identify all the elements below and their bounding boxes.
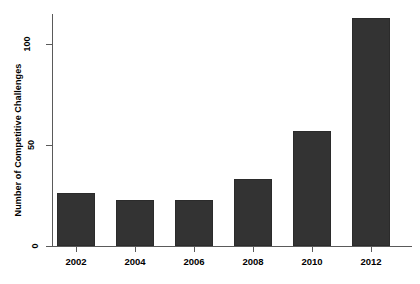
y-tick-label-0: 0	[29, 231, 41, 261]
bar-2004	[116, 200, 154, 246]
y-tick-mark-100	[46, 44, 52, 45]
y-tick-label-100: 100	[21, 29, 33, 59]
x-axis-line	[52, 246, 412, 247]
x-tick-mark-2010	[312, 247, 313, 252]
bar-2006	[175, 200, 213, 246]
x-tick-label-2010: 2010	[290, 255, 334, 268]
x-tick-mark-2006	[194, 247, 195, 252]
x-tick-label-2012: 2012	[349, 255, 393, 268]
x-tick-label-2002: 2002	[54, 255, 98, 268]
y-axis-line	[52, 14, 53, 247]
x-tick-label-2004: 2004	[113, 255, 157, 268]
x-tick-mark-2012	[371, 247, 372, 252]
y-tick-label-50: 50	[25, 130, 37, 160]
x-tick-label-2008: 2008	[231, 255, 275, 268]
y-tick-mark-50	[46, 145, 52, 146]
x-tick-mark-2002	[76, 247, 77, 252]
bar-chart: Number of Competitive Challenges 100 50 …	[0, 0, 420, 284]
y-tick-mark-0	[46, 246, 52, 247]
bar-2002	[57, 193, 95, 246]
bar-2010	[293, 131, 331, 246]
x-tick-mark-2008	[253, 247, 254, 252]
bar-2012	[352, 18, 390, 246]
bar-2008	[234, 179, 272, 246]
x-tick-label-2006: 2006	[172, 255, 216, 268]
x-tick-mark-2004	[135, 247, 136, 252]
